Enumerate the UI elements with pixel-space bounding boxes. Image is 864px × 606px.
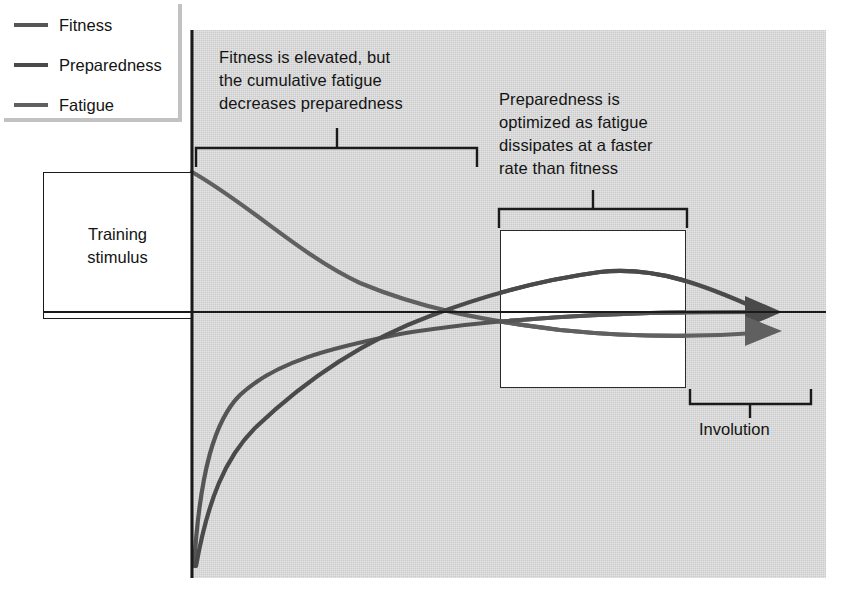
annotation-left-text: Fitness is elevated, but the cumulative … xyxy=(219,46,403,115)
bracket-left xyxy=(196,128,477,167)
annotation-involution-label: Involution xyxy=(699,420,770,439)
axes-and-brackets-layer xyxy=(0,0,864,606)
figure-root: Training stimulus Fitness is elevated, b… xyxy=(0,0,864,606)
bracket-center xyxy=(499,190,687,228)
bracket-involution xyxy=(690,389,811,418)
annotation-right-text: Preparedness is optimized as fatigue dis… xyxy=(499,88,653,180)
